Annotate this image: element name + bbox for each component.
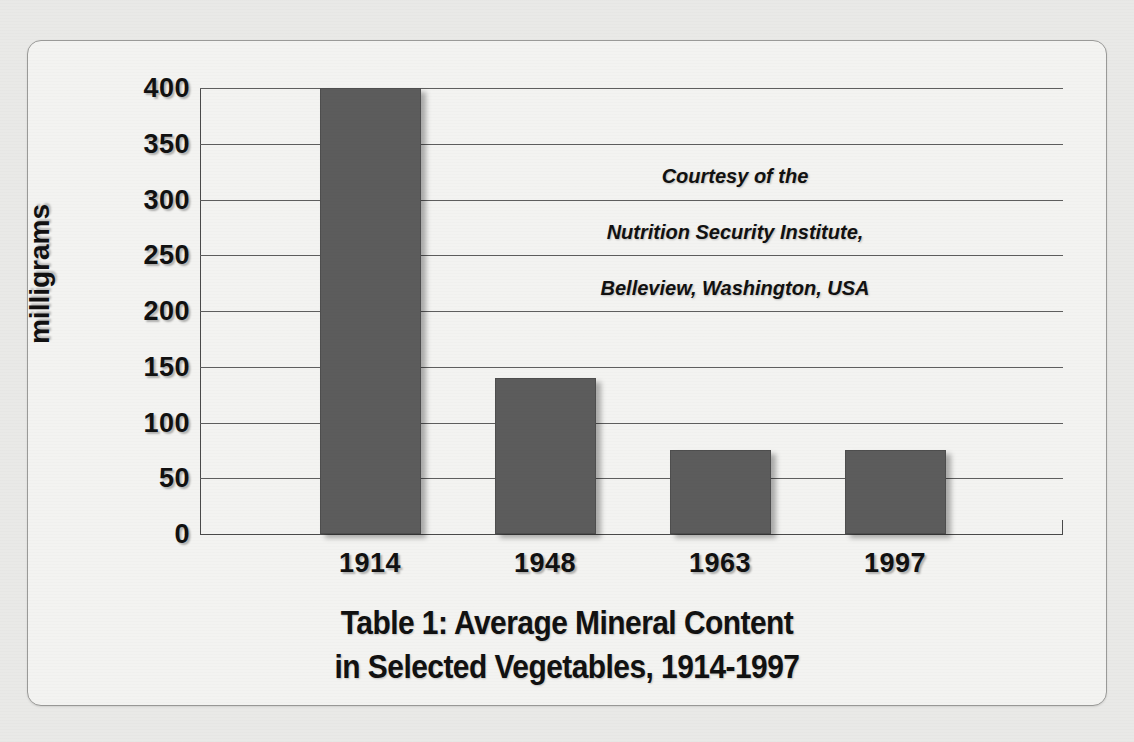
x-tick-1963: 1963 xyxy=(640,548,800,579)
y-tick-300: 300 xyxy=(70,185,190,216)
x-tick-1948: 1948 xyxy=(465,548,625,579)
chart-title-line-2: in Selected Vegetables, 1914-1997 xyxy=(215,644,919,688)
gridline-0-baseline xyxy=(200,534,1063,535)
bar-1963 xyxy=(670,450,771,534)
annotation-line-1: Courtesy of the xyxy=(520,148,950,204)
chart-title: Table 1: Average Mineral Content in Sele… xyxy=(167,600,967,688)
y-tick-250: 250 xyxy=(70,240,190,271)
y-tick-100: 100 xyxy=(70,408,190,439)
y-tick-400: 400 xyxy=(70,73,190,104)
y-tick-50: 50 xyxy=(70,463,190,494)
bar-1914 xyxy=(320,88,421,534)
y-axis-title: milligrams xyxy=(24,179,56,369)
y-tick-0: 0 xyxy=(70,519,190,550)
chart-annotation: Courtesy of the Nutrition Security Insti… xyxy=(520,148,950,316)
y-axis-tick-labels: 400 350 300 250 200 150 100 50 0 xyxy=(60,88,190,534)
y-tick-350: 350 xyxy=(70,129,190,160)
x-tick-1997: 1997 xyxy=(815,548,975,579)
bar-chart-figure: 400 350 300 250 200 150 100 50 0 milligr… xyxy=(0,0,1134,742)
y-tick-200: 200 xyxy=(70,296,190,327)
annotation-line-2: Nutrition Security Institute, xyxy=(520,204,950,260)
bar-1948 xyxy=(495,378,596,534)
annotation-line-3: Belleview, Washington, USA xyxy=(520,260,950,316)
y-tick-150: 150 xyxy=(70,352,190,383)
x-tick-1914: 1914 xyxy=(290,548,450,579)
bar-1997 xyxy=(845,450,946,534)
chart-title-line-1: Table 1: Average Mineral Content xyxy=(215,600,919,644)
